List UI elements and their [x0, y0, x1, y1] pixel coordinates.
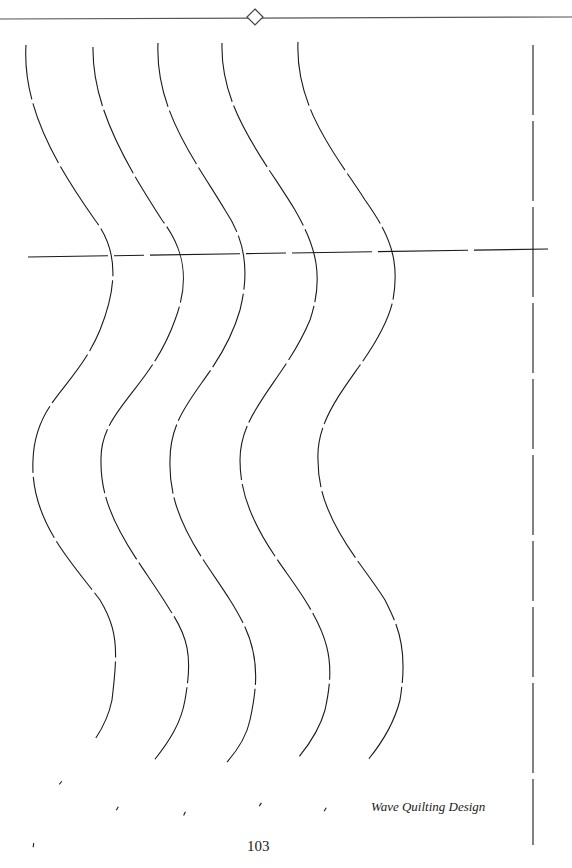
wave-line-4: [222, 43, 330, 845]
horizontal-guide-line: [28, 249, 548, 257]
wave-lines-group: [26, 42, 403, 850]
top-rule-divider: [0, 17, 572, 19]
page-number: 103: [247, 838, 270, 855]
quilting-pattern-canvas: [0, 0, 572, 868]
diamond-icon: [247, 9, 263, 25]
wave-line-3: [158, 43, 256, 843]
figure-caption: Wave Quilting Design: [371, 799, 485, 815]
wave-line-2: [93, 47, 189, 845]
wave-line-5: [298, 42, 403, 820]
